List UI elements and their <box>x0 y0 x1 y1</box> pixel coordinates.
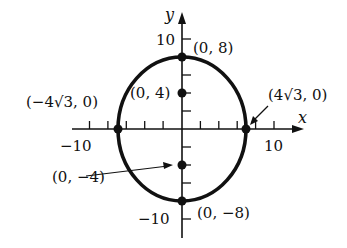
point-0-neg8 <box>178 197 187 206</box>
y-tick-label-10: 10 <box>156 31 175 49</box>
point-label-0-neg4: (0, −4) <box>52 168 105 186</box>
point-4r3-0 <box>242 125 251 134</box>
point-label-neg4r3-0: (−4√3, 0) <box>26 93 98 111</box>
y-axis-label: y <box>164 5 175 24</box>
point-neg4r3-0 <box>114 125 123 134</box>
arrowhead-icon <box>163 162 173 169</box>
y-axis-arrow-icon <box>178 12 186 24</box>
point-0-4 <box>178 89 187 98</box>
x-axis <box>72 125 304 133</box>
y-tick-label-neg10: −10 <box>138 210 170 228</box>
ellipse-figure: y x −10 10 10 −10 (0, 8) (0, 4) (−4√3, 0… <box>0 0 347 248</box>
point-label-0-8: (0, 8) <box>193 39 233 57</box>
point-0-neg4 <box>178 161 187 170</box>
x-tick-label-neg10: −10 <box>60 137 92 155</box>
leader-arrow-4r3 <box>250 106 268 125</box>
point-label-4r3-0: (4√3, 0) <box>268 86 327 104</box>
point-0-8 <box>178 53 187 62</box>
point-label-0-4: (0, 4) <box>130 84 170 102</box>
x-tick-label-10: 10 <box>264 137 283 155</box>
x-axis-label: x <box>298 108 307 127</box>
point-label-0-neg8: (0, −8) <box>197 204 250 222</box>
